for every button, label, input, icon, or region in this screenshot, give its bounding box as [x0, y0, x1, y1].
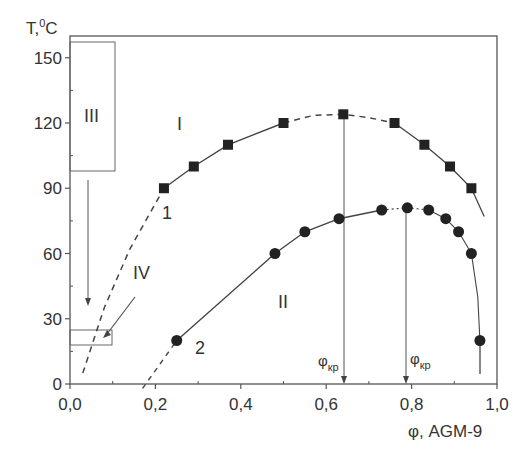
arrow-head	[85, 298, 91, 306]
marker-circle	[453, 226, 464, 237]
y-tick-label: 30	[43, 310, 62, 329]
x-tick-label: 0,4	[229, 395, 253, 414]
y-tick-label: 60	[43, 245, 62, 264]
y-tick-label: 0	[53, 375, 62, 394]
arrow-head	[403, 376, 409, 384]
y-tick-label: 120	[34, 114, 62, 133]
x-tick-label: 0,8	[400, 395, 424, 414]
curves	[83, 114, 484, 388]
x-tick-label: 0,6	[314, 395, 338, 414]
x-axis-ticks: 0,00,20,40,60,81,0	[58, 381, 509, 414]
x-tick-label: 0,2	[144, 395, 168, 414]
marker-circle	[334, 213, 345, 224]
region-IV-arrow	[107, 297, 135, 334]
marker-circle	[423, 205, 434, 216]
region-IV-box	[70, 330, 112, 345]
marker-square	[466, 183, 476, 193]
region-IV-label: IV	[133, 263, 150, 283]
marker-square	[390, 118, 400, 128]
marker-square	[338, 109, 348, 119]
marker-circle	[474, 335, 485, 346]
marker-square	[419, 140, 429, 150]
marker-circle	[440, 213, 451, 224]
x-tick-label: 1,0	[485, 395, 509, 414]
arrow-head	[341, 376, 347, 384]
curve-2-label: 2	[195, 338, 205, 358]
marker-square	[445, 162, 455, 172]
marker-circle	[299, 226, 310, 237]
x-tick-label: 0,0	[58, 395, 82, 414]
x-axis-title: φ, AGM-9	[408, 422, 482, 441]
marker-circle	[466, 248, 477, 259]
y-axis-title: T,0C	[26, 17, 58, 38]
marker-circle	[269, 248, 280, 259]
markers	[159, 109, 485, 346]
chart: 0306090120150 0,00,20,40,60,81,0 T,0C φ,…	[0, 0, 528, 453]
region-I-label: I	[177, 114, 182, 134]
y-tick-label: 90	[43, 179, 62, 198]
marker-circle	[402, 202, 413, 213]
region-II-label: II	[278, 292, 288, 312]
marker-square	[189, 162, 199, 172]
marker-square	[159, 183, 169, 193]
marker-square	[223, 140, 233, 150]
phi-cr-2-label: φкр	[410, 350, 431, 371]
phi-cr-1-label: φкр	[318, 352, 339, 373]
y-tick-label: 150	[34, 49, 62, 68]
region-III-label: III	[84, 106, 99, 126]
marker-square	[279, 118, 289, 128]
marker-circle	[171, 335, 182, 346]
curve-1-label: 1	[162, 203, 172, 223]
y-axis-ticks: 0306090120150	[34, 49, 73, 394]
marker-circle	[376, 205, 387, 216]
